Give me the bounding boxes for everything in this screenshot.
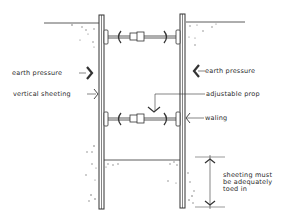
timbering-diagram: earth pressure vertical sheeting earth p… [0,0,289,224]
vertical-sheeting-label: vertical sheeting [13,91,71,98]
waling-label: waling [205,115,227,122]
upper-prop [104,30,180,44]
earth-pressure-right-label: earth pressure [205,68,255,75]
earth-pressure-left-arrow [87,67,92,79]
toe-in-note: sheeting must be adequately toed in [223,172,281,193]
soil-dots [71,23,216,203]
adjustable-prop-pointer [148,107,160,112]
earth-pressure-left-label: earth pressure [12,70,62,77]
lower-prop [104,112,180,126]
toe-in-dimension [195,155,225,209]
adjustable-prop-label: adjustable prop [206,91,260,98]
